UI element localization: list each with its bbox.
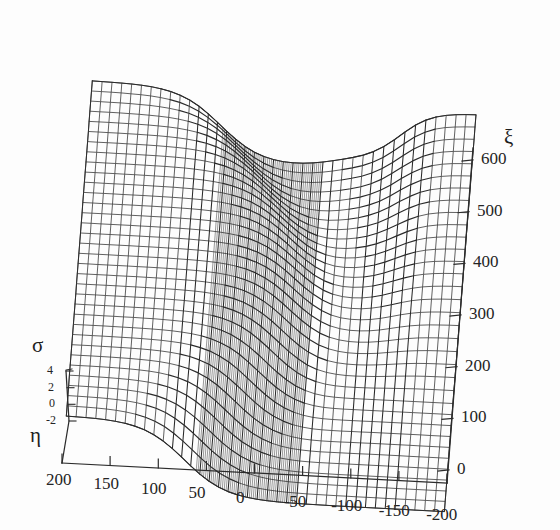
sigma-tick-label: 0 xyxy=(49,396,55,411)
eta-tick-label: 50 xyxy=(189,483,206,503)
xi-axis-symbol: ξ xyxy=(504,125,513,150)
xi-tick-label: 100 xyxy=(461,407,487,427)
xi-tick-label: 400 xyxy=(473,252,499,272)
eta-axis-symbol: η xyxy=(30,423,41,448)
xi-tick-label: 0 xyxy=(457,459,466,479)
xi-tick-mark xyxy=(454,263,465,264)
xi-tick-label: 600 xyxy=(481,149,507,169)
eta-tick-label: -200 xyxy=(426,505,457,525)
surface-mesh xyxy=(66,81,476,512)
sigma-tick-label: -2 xyxy=(46,413,56,428)
sigma-axis-symbol: σ xyxy=(32,333,43,358)
eta-tick-label: 0 xyxy=(236,488,245,508)
eta-tick-label: 150 xyxy=(94,474,120,494)
xi-tick-mark xyxy=(462,160,473,161)
sigma-tick-label: 2 xyxy=(48,380,54,395)
xi-tick-label: 300 xyxy=(469,304,495,324)
eta-tick-label: 200 xyxy=(46,470,72,490)
eta-tick-label: -50 xyxy=(284,492,307,512)
sigma-tick-label: 4 xyxy=(47,363,53,378)
surface-plot-figure: σ η ξ 200150100500-50-100-150-200 600500… xyxy=(0,0,560,530)
xi-tick-label: 200 xyxy=(465,356,491,376)
eta-tick-label: -100 xyxy=(331,496,362,516)
eta-tick-label: 100 xyxy=(141,479,167,499)
eta-tick-label: -150 xyxy=(379,501,410,521)
xi-tick-label: 500 xyxy=(477,201,503,221)
